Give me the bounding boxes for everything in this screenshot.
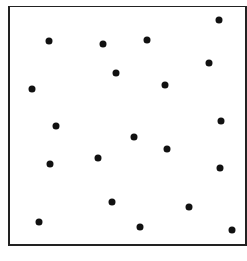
dot-marker	[229, 227, 236, 234]
dot-marker	[144, 37, 151, 44]
dot-marker	[218, 118, 225, 125]
dot-marker	[53, 123, 60, 130]
dot-marker	[137, 224, 144, 231]
dot-marker	[164, 146, 171, 153]
dot-marker	[186, 204, 193, 211]
dot-marker	[113, 70, 120, 77]
dot-marker	[109, 199, 116, 206]
square-frame	[8, 6, 247, 246]
dot-marker	[29, 86, 36, 93]
dot-marker	[206, 60, 213, 67]
dot-marker	[162, 82, 169, 89]
dot-marker	[47, 161, 54, 168]
dot-marker	[100, 41, 107, 48]
dot-marker	[216, 17, 223, 24]
dot-marker	[95, 155, 102, 162]
dot-marker	[36, 219, 43, 226]
dot-marker	[131, 134, 138, 141]
dot-marker	[217, 165, 224, 172]
dot-marker	[46, 38, 53, 45]
